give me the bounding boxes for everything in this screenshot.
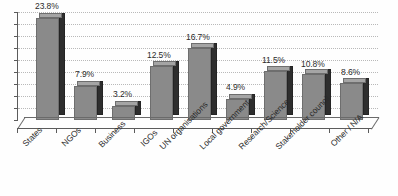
bar-side	[363, 78, 369, 115]
bar-face	[36, 18, 59, 120]
bar-value-label: 16.7%	[186, 32, 210, 42]
bar-side	[59, 13, 65, 115]
bar-value-label: 11.5%	[262, 55, 285, 65]
bar-face	[74, 86, 97, 120]
x-axis-tick	[368, 128, 369, 133]
bar-value-label: 4.9%	[226, 82, 245, 92]
bar-states	[36, 18, 59, 120]
bar-side	[325, 69, 331, 115]
x-axis-tick	[95, 128, 96, 133]
floor-back-edge	[24, 117, 379, 118]
bar-side	[211, 43, 217, 115]
bar-face	[150, 66, 173, 120]
bar-side	[97, 81, 103, 115]
bar-side	[287, 66, 293, 115]
bar-value-label: 7.9%	[75, 69, 94, 79]
bar-ngos	[74, 86, 97, 120]
bar-value-label: 12.5%	[147, 50, 171, 60]
floor-left-edge	[17, 117, 25, 129]
x-axis-tick	[17, 128, 18, 133]
x-axis-tick	[134, 128, 135, 133]
x-axis-tick	[56, 128, 57, 133]
bar-value-label: 8.6%	[341, 67, 360, 77]
bar-value-label: 23.8%	[35, 1, 59, 11]
bar-side	[173, 61, 179, 115]
bar-chart: 23.8% 7.9% 3.2% 12.5% 16.7%	[0, 0, 398, 196]
floor-right-edge	[371, 117, 380, 129]
bar-value-label: 10.8%	[301, 59, 325, 69]
x-axis-tick	[329, 128, 330, 133]
bar-value-label: 3.2%	[113, 89, 132, 99]
bar-igos	[150, 66, 173, 120]
